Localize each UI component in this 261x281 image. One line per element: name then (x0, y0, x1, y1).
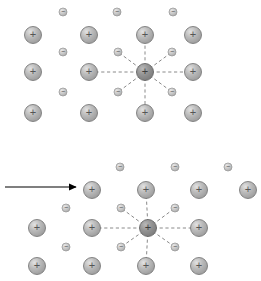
ion: + (240, 182, 257, 199)
lattice-diagram: −−−−−−−−−−−−−−−−−− +++++++++++++++++++++… (0, 0, 261, 281)
electron: − (62, 204, 70, 212)
ion-sign: + (196, 259, 202, 271)
ion: + (81, 105, 98, 122)
electron: − (168, 88, 176, 96)
ion-sign: + (30, 106, 36, 118)
diagram-canvas: −−−−−−−−−−−−−−−−−− +++++++++++++++++++++… (0, 0, 261, 281)
electron: − (171, 163, 179, 171)
electron: − (59, 88, 67, 96)
ion: + (137, 27, 154, 44)
ion: + (29, 258, 46, 275)
ion: + (81, 64, 98, 81)
ion-highlighted: + (140, 220, 157, 237)
ion-sign: + (245, 183, 251, 195)
ion: + (25, 64, 42, 81)
ion: + (25, 105, 42, 122)
electron-sign: − (170, 88, 174, 95)
ion: + (185, 27, 202, 44)
electron: − (168, 48, 176, 56)
ion-sign: + (143, 183, 149, 195)
ion-sign: + (196, 221, 202, 233)
electron-sign: − (173, 243, 177, 250)
ion-sign: + (34, 259, 40, 271)
electron: − (113, 8, 121, 16)
electron: − (224, 163, 232, 171)
ion-sign: + (190, 65, 196, 77)
electron-sign: − (173, 204, 177, 211)
ion: + (185, 105, 202, 122)
ion-sign: + (142, 106, 148, 118)
ion: + (84, 220, 101, 237)
ion-sign: + (86, 28, 92, 40)
ion: + (84, 182, 101, 199)
ion-sign: + (30, 28, 36, 40)
ion: + (138, 182, 155, 199)
electron-sign: − (171, 8, 175, 15)
electron: − (114, 48, 122, 56)
ion-sign: + (145, 221, 151, 233)
electron: − (117, 204, 125, 212)
electron-sign: − (119, 204, 123, 211)
ion-sign: + (34, 221, 40, 233)
electron-sign: − (116, 88, 120, 95)
ion: + (29, 220, 46, 237)
electron: − (169, 8, 177, 16)
electron: − (171, 243, 179, 251)
electron-sign: − (61, 8, 65, 15)
ion-sign: + (30, 65, 36, 77)
electron: − (171, 204, 179, 212)
electron: − (59, 48, 67, 56)
electron-sign: − (64, 204, 68, 211)
ion: + (84, 258, 101, 275)
electron: − (114, 88, 122, 96)
ion: + (191, 258, 208, 275)
ion: + (138, 258, 155, 275)
ions-layer: ++++++++++++++++++++++++ (25, 27, 257, 275)
electron-sign: − (173, 163, 177, 170)
ion-sign: + (190, 28, 196, 40)
ion-sign: + (89, 221, 95, 233)
ion: + (25, 27, 42, 44)
electron: − (117, 243, 125, 251)
electron: − (62, 243, 70, 251)
ion: + (185, 64, 202, 81)
ion-sign: + (86, 65, 92, 77)
ion-highlighted: + (137, 64, 154, 81)
electron-sign: − (226, 163, 230, 170)
ion-sign: + (190, 106, 196, 118)
ion: + (137, 105, 154, 122)
electrons-layer: −−−−−−−−−−−−−−−−−− (59, 8, 232, 251)
electron-sign: − (116, 48, 120, 55)
ion-sign: + (86, 106, 92, 118)
electron-sign: − (61, 88, 65, 95)
ion-sign: + (89, 183, 95, 195)
ion-sign: + (89, 259, 95, 271)
electron-sign: − (64, 243, 68, 250)
electron: − (59, 8, 67, 16)
electron-sign: − (115, 8, 119, 15)
ion: + (81, 27, 98, 44)
ion-sign: + (143, 259, 149, 271)
electron: − (116, 163, 124, 171)
ion-sign: + (196, 183, 202, 195)
electron-sign: − (170, 48, 174, 55)
ion: + (191, 220, 208, 237)
electron-sign: − (119, 243, 123, 250)
electron-sign: − (118, 163, 122, 170)
ion: + (191, 182, 208, 199)
electron-sign: − (61, 48, 65, 55)
ion-sign: + (142, 65, 148, 77)
ion-sign: + (142, 28, 148, 40)
